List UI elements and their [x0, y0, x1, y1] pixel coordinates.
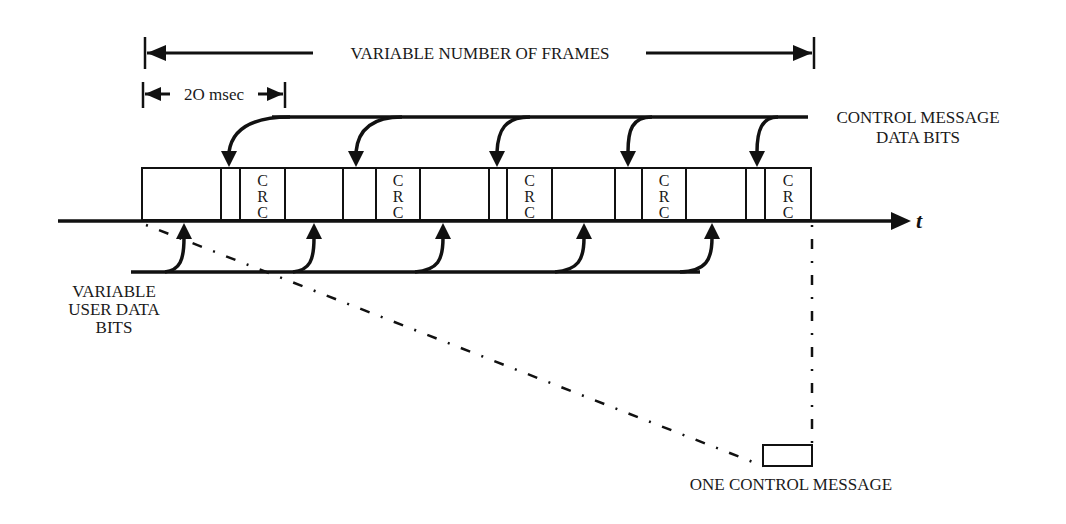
user-arrow-3 — [415, 238, 443, 272]
control-arrowhead-3-icon — [489, 151, 505, 167]
projection-diagonal-line — [146, 225, 763, 466]
crc-letter: R — [659, 188, 670, 205]
crc-letter: C — [783, 204, 794, 221]
frame-dividers — [221, 168, 765, 220]
user-bits-label-line3: BITS — [96, 318, 133, 337]
user-arrowhead-4-icon — [576, 223, 592, 239]
frame-duration-indicator: 2O msec — [143, 82, 285, 108]
crc-letter: R — [393, 188, 404, 205]
control-bits-label-line1: CONTROL MESSAGE — [836, 108, 999, 127]
frame-sequence-outline — [142, 168, 811, 220]
user-arrow-2 — [293, 238, 314, 272]
control-arrow-3 — [497, 117, 530, 152]
control-arrow-1 — [229, 117, 290, 152]
time-axis-arrowhead-icon — [891, 212, 911, 230]
crc-letter: C — [659, 172, 670, 189]
user-arrowhead-3-icon — [435, 223, 451, 239]
control-message-input: CONTROL MESSAGE DATA BITS — [221, 108, 1000, 167]
crc-letter: C — [257, 172, 268, 189]
user-arrowhead-5-icon — [704, 223, 720, 239]
crc-letter: C — [524, 172, 535, 189]
duration-left-arrowhead-icon — [145, 87, 161, 101]
user-bits-label-line2: USER DATA — [68, 300, 160, 319]
frames-span-label: VARIABLE NUMBER OF FRAMES — [351, 44, 610, 63]
user-arrow-1 — [165, 238, 184, 272]
user-arrow-5 — [680, 238, 712, 272]
one-control-message-box — [763, 445, 812, 466]
control-arrow-4 — [628, 117, 652, 152]
crc-letter: C — [257, 204, 268, 221]
crc-letter: C — [393, 204, 404, 221]
frames-span-indicator: VARIABLE NUMBER OF FRAMES — [145, 37, 814, 69]
span-left-arrowhead-icon — [147, 45, 166, 61]
control-arrowhead-4-icon — [620, 151, 636, 167]
crc-letter: C — [659, 204, 670, 221]
crc-letter: C — [393, 172, 404, 189]
crc-letter: R — [524, 188, 535, 205]
frame-sequence: CRCCRCCRCCRCCRC — [142, 168, 811, 221]
duration-right-arrowhead-icon — [267, 87, 283, 101]
control-message-projection: ONE CONTROL MESSAGE — [146, 225, 892, 494]
control-arrowhead-2-icon — [348, 151, 364, 167]
frame-duration-label: 2O msec — [184, 85, 244, 104]
control-arrow-5 — [757, 117, 778, 152]
user-arrow​head-2-icon — [306, 223, 322, 239]
user-bits-label-line1: VARIABLE — [72, 282, 156, 301]
crc-letter: C — [783, 172, 794, 189]
span-right-arrowhead-icon — [793, 45, 812, 61]
diagram-canvas: VARIABLE NUMBER OF FRAMES 2O msec CONTRO… — [0, 0, 1066, 524]
time-axis-label: t — [916, 208, 923, 233]
one-control-message-label: ONE CONTROL MESSAGE — [690, 475, 892, 494]
crc-letter: R — [783, 188, 794, 205]
user-data-input: VARIABLE USER DATA BITS — [68, 223, 720, 337]
user-arrow-4 — [555, 238, 584, 272]
crc-labels: CRCCRCCRCCRCCRC — [257, 172, 794, 221]
crc-letter: R — [257, 188, 268, 205]
control-arrowhead-5-icon — [749, 151, 765, 167]
control-bits-label-line2: DATA BITS — [876, 128, 960, 147]
frame-structure-diagram: VARIABLE NUMBER OF FRAMES 2O msec CONTRO… — [0, 0, 1066, 524]
control-arrowhead-1-icon — [221, 151, 237, 167]
control-arrow-2 — [356, 117, 402, 152]
crc-letter: C — [524, 204, 535, 221]
user-arrowhead-1-icon — [176, 223, 192, 239]
